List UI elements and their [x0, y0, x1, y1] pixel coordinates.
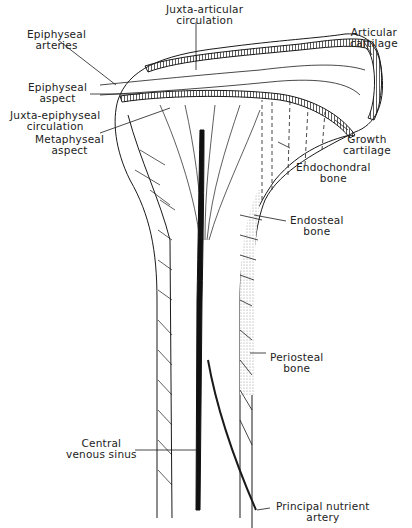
- label-epiphyseal-aspect: Epiphyseal aspect: [28, 82, 87, 104]
- label-articular-cartilage: Articular cartilage: [350, 27, 398, 49]
- label-line: bone: [290, 226, 344, 237]
- label-line: bone: [270, 363, 323, 374]
- bone-blood-supply-diagram: Juxta-articular circulation Epiphyseal a…: [0, 0, 412, 528]
- metaphyseal-vessels: [160, 105, 260, 240]
- label-growth-cartilage: Growth cartilage: [343, 134, 391, 156]
- label-endosteal-bone: Endosteal bone: [290, 215, 344, 237]
- label-line: venous sinus: [66, 449, 137, 460]
- label-line: arteries: [27, 40, 86, 51]
- label-line: circulation: [10, 121, 100, 132]
- articular-cartilage: [145, 39, 382, 120]
- bone-illustration: [0, 0, 412, 528]
- label-juxta-epiphyseal-circulation: Juxta-epiphyseal circulation: [10, 110, 100, 132]
- label-endochondral-bone: Endochondral bone: [296, 162, 371, 184]
- label-epiphyseal-arteries: Epiphyseal arteries: [27, 29, 86, 51]
- label-line: artery: [276, 512, 370, 523]
- label-line: cartilage: [350, 38, 398, 49]
- central-venous-sinus: [196, 130, 204, 510]
- label-line: aspect: [35, 145, 104, 156]
- label-line: cartilage: [343, 145, 391, 156]
- label-line: bone: [296, 173, 371, 184]
- label-periosteal-bone: Periosteal bone: [270, 352, 323, 374]
- label-principal-nutrient-artery: Principal nutrient artery: [276, 501, 370, 523]
- cortical-vessels-left: [135, 150, 175, 485]
- growth-cartilage: [120, 90, 355, 138]
- label-juxta-articular-circulation: Juxta-articular circulation: [166, 4, 243, 26]
- label-line: aspect: [28, 93, 87, 104]
- label-central-venous-sinus: Central venous sinus: [66, 438, 137, 460]
- label-metaphyseal-aspect: Metaphyseal aspect: [35, 134, 104, 156]
- label-line: circulation: [166, 15, 243, 26]
